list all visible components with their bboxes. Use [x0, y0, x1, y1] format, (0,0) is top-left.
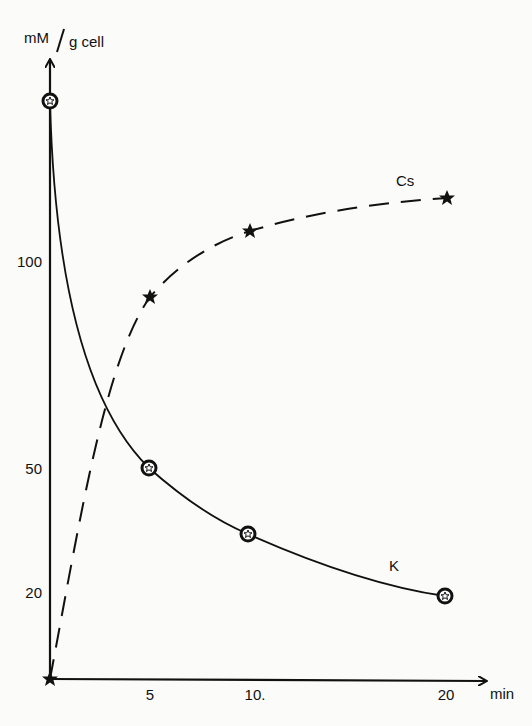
k-marker-10	[241, 527, 255, 541]
series-cs-line	[50, 198, 447, 679]
x-tick-5: 5	[146, 686, 154, 703]
series-k-line	[50, 101, 445, 596]
series-k-markers	[43, 94, 452, 603]
x-axis	[49, 679, 486, 681]
series-cs-label: Cs	[396, 172, 414, 189]
chart: mM g cell 100 50 20 5 10. 20 min	[0, 0, 532, 726]
y-tick-50: 50	[25, 460, 42, 477]
series-cs-markers	[42, 190, 455, 686]
y-axis-label-bottom: g cell	[69, 33, 104, 50]
cs-marker-10	[242, 223, 258, 238]
y-axis-label-slash	[57, 29, 64, 52]
k-marker-5	[142, 461, 156, 475]
x-tick-20: 20	[438, 686, 455, 703]
k-marker-20	[438, 589, 452, 603]
y-tick-100: 100	[17, 253, 42, 270]
k-marker-0	[43, 94, 57, 108]
y-tick-20: 20	[25, 584, 42, 601]
y-axis-label-top: mM	[24, 29, 49, 46]
cs-marker-5	[142, 289, 158, 304]
x-axis-label: min	[490, 685, 514, 702]
series-k-label: K	[389, 557, 399, 574]
x-tick-10: 10.	[245, 686, 266, 703]
